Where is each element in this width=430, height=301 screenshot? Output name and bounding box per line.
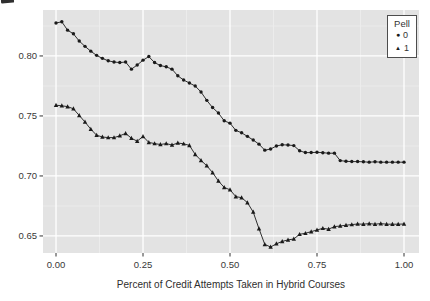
legend: Pell ● 0 ▲ 1 (387, 15, 417, 58)
line-chart: 0.000.250.500.751.000.800.750.700.65 Per… (0, 0, 430, 301)
legend-item-label-0: 0 (403, 29, 408, 42)
triangle-marker-icon: ▲ (395, 42, 401, 55)
svg-text:0.25: 0.25 (134, 259, 153, 270)
legend-title: Pell (388, 18, 416, 29)
legend-item-pell-1: ▲ 1 (388, 42, 416, 55)
legend-item-pell-0: ● 0 (388, 29, 416, 42)
svg-text:0.50: 0.50 (221, 259, 240, 270)
x-axis-title: Percent of Credit Attempts Taken in Hybr… (117, 279, 345, 290)
svg-text:0.70: 0.70 (19, 170, 38, 181)
legend-item-label-1: 1 (404, 42, 409, 55)
circle-marker-icon: ● (396, 29, 400, 42)
svg-text:0.65: 0.65 (19, 230, 38, 241)
figure: 0.000.250.500.751.000.800.750.700.65 Per… (0, 0, 430, 301)
svg-text:0.80: 0.80 (19, 50, 38, 61)
svg-text:0.75: 0.75 (308, 259, 327, 270)
svg-text:0.75: 0.75 (19, 110, 38, 121)
svg-text:1.00: 1.00 (395, 259, 414, 270)
svg-text:0.00: 0.00 (47, 259, 66, 270)
